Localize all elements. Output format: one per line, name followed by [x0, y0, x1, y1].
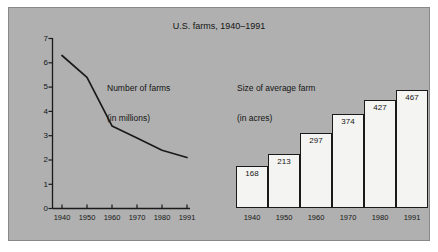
chart-figure: U.S. farms, 1940–1991 Number of farms (i…: [0, 0, 438, 252]
plot-vector-layer: [0, 0, 438, 252]
farm-count-line: [62, 56, 187, 158]
